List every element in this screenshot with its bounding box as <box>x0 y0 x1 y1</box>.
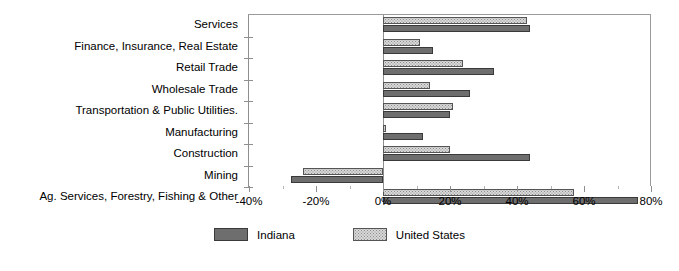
legend-label-united-states: United States <box>396 229 465 241</box>
value-minor-tick <box>551 186 552 189</box>
bar-united-states <box>383 125 386 132</box>
value-minor-tick <box>283 186 284 189</box>
bar-group <box>248 101 651 123</box>
value-tick-label: 40% <box>505 195 528 207</box>
category-label: Retail Trade <box>0 57 243 79</box>
bar-united-states <box>383 103 453 110</box>
bar-indiana <box>291 176 383 183</box>
bar-group <box>248 123 651 145</box>
bar-indiana <box>383 68 494 75</box>
legend-swatch-united-states <box>353 228 387 241</box>
value-tick <box>383 186 384 192</box>
bar-group <box>248 37 651 59</box>
legend-item-united-states: United States <box>353 228 465 241</box>
bar-indiana <box>383 25 530 32</box>
value-tick <box>450 186 451 192</box>
legend-label-indiana: Indiana <box>257 229 295 241</box>
value-minor-tick <box>350 186 351 189</box>
bar-united-states <box>303 168 383 175</box>
bar-group <box>248 15 651 37</box>
value-tick-label: -20% <box>303 195 330 207</box>
category-label: Wholesale Trade <box>0 79 243 101</box>
bar-indiana <box>383 154 530 161</box>
value-axis-ticks <box>248 186 651 194</box>
category-label: Services <box>0 14 243 36</box>
value-axis-labels: -40%-20%0%20%40%60%80% <box>248 195 651 211</box>
bar-chart: ServicesFinance, Insurance, Real EstateR… <box>0 0 679 271</box>
value-minor-tick <box>618 186 619 189</box>
category-label: Construction <box>0 143 243 165</box>
value-tick-label: 20% <box>438 195 461 207</box>
category-label: Mining <box>0 165 243 187</box>
bar-group <box>248 58 651 80</box>
category-axis-labels: ServicesFinance, Insurance, Real EstateR… <box>0 14 243 208</box>
bar-united-states <box>383 60 463 67</box>
bar-group <box>248 144 651 166</box>
category-label: Manufacturing <box>0 122 243 144</box>
value-tick-label: 80% <box>639 195 662 207</box>
value-minor-tick <box>484 186 485 189</box>
chart-legend: Indiana United States <box>0 228 679 241</box>
legend-item-indiana: Indiana <box>214 228 295 241</box>
bar-group <box>248 80 651 102</box>
bar-group <box>248 166 651 188</box>
value-tick <box>517 186 518 192</box>
bar-united-states <box>383 146 450 153</box>
value-tick-label: -40% <box>236 195 263 207</box>
value-tick <box>249 186 250 192</box>
bar-united-states <box>383 17 527 24</box>
bar-indiana <box>383 90 470 97</box>
legend-swatch-indiana <box>214 228 248 241</box>
bar-united-states <box>383 82 430 89</box>
category-label: Transportation & Public Utilities. <box>0 100 243 122</box>
category-label: Finance, Insurance, Real Estate <box>0 36 243 58</box>
bar-indiana <box>383 133 423 140</box>
category-label: Ag. Services, Forestry, Fishing & Other <box>0 186 243 208</box>
value-tick <box>584 186 585 192</box>
bar-united-states <box>383 39 420 46</box>
value-tick <box>316 186 317 192</box>
value-tick <box>651 186 652 192</box>
value-tick-label: 0% <box>375 195 392 207</box>
bar-indiana <box>383 47 433 54</box>
plot-area <box>248 14 651 186</box>
value-tick-label: 60% <box>572 195 595 207</box>
bar-indiana <box>383 111 450 118</box>
value-minor-tick <box>417 186 418 189</box>
